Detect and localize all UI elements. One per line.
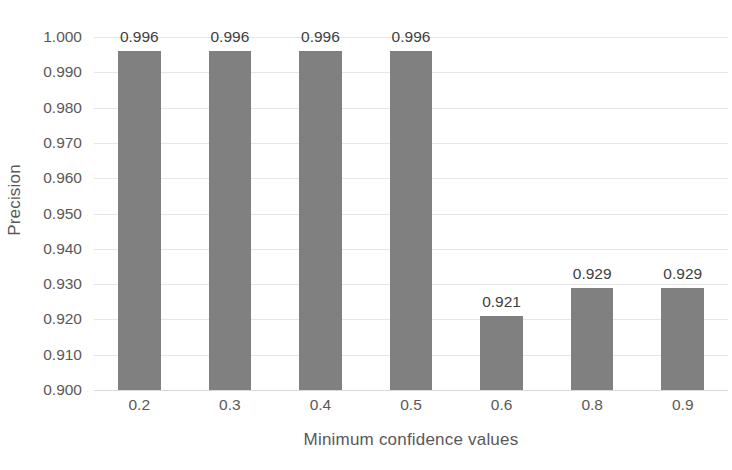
x-axis-tick-label: 0.5 (366, 396, 457, 424)
bar-value-label: 0.996 (120, 28, 159, 46)
bar-slot: 0.929 (547, 37, 638, 390)
gridline (94, 390, 728, 391)
bar-slot: 0.996 (94, 37, 185, 390)
y-axis-tick-label: 0.950 (43, 205, 82, 223)
x-axis-title: Minimum confidence values (94, 430, 728, 450)
bar-value-label: 0.996 (301, 28, 340, 46)
y-axis-tick-labels: 1.0000.9900.9800.9700.9600.9500.9400.930… (26, 37, 88, 390)
x-axis-tick-label: 0.9 (637, 396, 728, 424)
y-axis-tick-label: 0.900 (43, 381, 82, 399)
bars-container: 0.9960.9960.9960.9960.9210.9290.929 (94, 37, 728, 390)
bar[interactable]: 0.996 (390, 51, 433, 390)
x-axis-tick-labels: 0.20.30.40.50.60.80.9 (94, 396, 728, 424)
bar[interactable]: 0.929 (661, 288, 704, 390)
bar-value-label: 0.921 (482, 293, 521, 311)
y-axis-tick-label: 0.970 (43, 134, 82, 152)
plot-area: 0.9960.9960.9960.9960.9210.9290.929 (94, 37, 728, 390)
bar[interactable]: 0.996 (299, 51, 342, 390)
bar-value-label: 0.929 (573, 265, 612, 283)
x-axis-tick-label: 0.8 (547, 396, 638, 424)
bar-value-label: 0.996 (392, 28, 431, 46)
y-axis-tick-label: 0.940 (43, 240, 82, 258)
y-axis-tick-label: 0.990 (43, 63, 82, 81)
bar-slot: 0.921 (456, 37, 547, 390)
bar-chart: Precision 1.0000.9900.9800.9700.9600.950… (0, 0, 732, 470)
y-axis-tick-label: 0.960 (43, 169, 82, 187)
bar-value-label: 0.996 (210, 28, 249, 46)
x-axis-tick-label: 0.3 (185, 396, 276, 424)
x-axis-tick-label: 0.6 (456, 396, 547, 424)
bar-value-label: 0.929 (663, 265, 702, 283)
bar-slot: 0.996 (185, 37, 276, 390)
x-axis-tick-label: 0.2 (94, 396, 185, 424)
bar-slot: 0.929 (637, 37, 728, 390)
bar-slot: 0.996 (366, 37, 457, 390)
y-axis-tick-label: 1.000 (43, 28, 82, 46)
x-axis-tick-label: 0.4 (275, 396, 366, 424)
bar-slot: 0.996 (275, 37, 366, 390)
bar[interactable]: 0.996 (118, 51, 161, 390)
y-axis-tick-label: 0.930 (43, 275, 82, 293)
y-axis-title-text: Precision (5, 164, 25, 236)
bar[interactable]: 0.921 (480, 316, 523, 390)
bar[interactable]: 0.929 (571, 288, 614, 390)
y-axis-tick-label: 0.980 (43, 99, 82, 117)
y-axis-tick-label: 0.910 (43, 346, 82, 364)
bar[interactable]: 0.996 (209, 51, 252, 390)
y-axis-tick-label: 0.920 (43, 310, 82, 328)
